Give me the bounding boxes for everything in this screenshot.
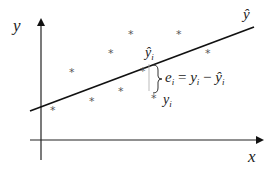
data-point-marker: * — [69, 66, 75, 79]
data-point-marker: * — [140, 65, 146, 78]
data-point-marker: * — [118, 85, 124, 98]
fitted-value-label: ŷi — [143, 45, 154, 62]
data-point-marker: * — [128, 28, 134, 41]
data-point-marker: * — [50, 104, 56, 117]
data-point-marker: * — [108, 47, 114, 60]
observed-point-label: yi — [161, 92, 172, 109]
residual-brace-icon — [153, 65, 162, 93]
data-point-marker: * — [176, 28, 182, 41]
data-point-marker: * — [205, 47, 211, 60]
data-point-marker: * — [89, 95, 95, 108]
y-axis-label: y — [11, 16, 21, 35]
regression-diagram: y x ŷ ********* * yi ŷi ei = yi − ŷi — [0, 0, 275, 173]
observed-point-marker: * — [151, 92, 157, 105]
regression-line-label: ŷ — [241, 6, 250, 22]
x-axis-label: x — [247, 147, 256, 166]
residual-equation: ei = yi − ŷi — [165, 69, 225, 87]
